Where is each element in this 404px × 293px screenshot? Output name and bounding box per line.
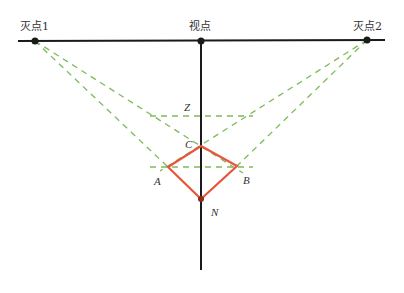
viewpoint-label: 视点 <box>189 17 211 33</box>
point-z-label: Z <box>184 101 190 113</box>
point-c-label: C <box>185 138 192 150</box>
point-n-label: N <box>211 206 218 218</box>
vanishing-point-2-dot <box>364 37 371 44</box>
vanishing-point-2-label: 灭点2 <box>353 17 382 33</box>
point-b-label: B <box>243 174 250 186</box>
vanishing-point-1-label: 灭点1 <box>20 17 49 33</box>
perspective-diagram <box>0 0 404 293</box>
point-n-dot <box>198 196 204 202</box>
point-a-label: A <box>154 175 161 187</box>
square-outline <box>168 146 237 199</box>
vanishing-point-1-dot <box>32 38 39 45</box>
viewpoint-dot <box>198 38 205 45</box>
